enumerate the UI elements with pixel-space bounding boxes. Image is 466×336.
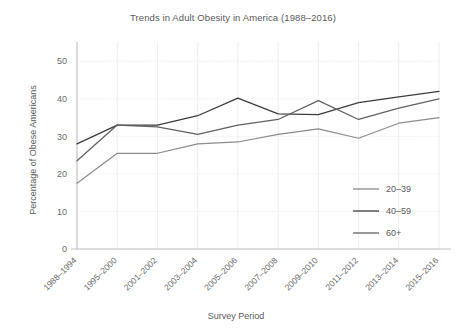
- series-line-2039: [77, 118, 439, 184]
- x-tick-label: 2003–2004: [162, 255, 199, 292]
- horizontal-gridlines: [77, 61, 439, 249]
- x-tick-label: 2001–2002: [122, 255, 159, 292]
- y-axis-title: Percentage of Obese Americans: [28, 85, 38, 215]
- legend-label: 20–39: [386, 184, 411, 194]
- x-tick-label: 1995–2000: [81, 255, 118, 292]
- chart-plot-area: 01020304050 1988–19941995–20002001–20022…: [0, 0, 466, 336]
- x-axis-tick-labels: 1988–19941995–20002001–20022003–20042005…: [41, 255, 440, 292]
- legend-label: 40–59: [386, 206, 411, 216]
- legend-label: 60+: [386, 228, 401, 238]
- y-tick-label: 40: [57, 94, 67, 104]
- x-tick-label: 2007–2008: [242, 255, 279, 292]
- series-line-60+: [77, 99, 439, 161]
- x-tick-label: 2011–2012: [323, 255, 360, 292]
- y-tick-label: 20: [57, 169, 67, 179]
- x-tick-label: 2013–2014: [363, 255, 400, 292]
- x-tick-label: 2009–2010: [283, 255, 320, 292]
- x-axis-title: Survey Period: [208, 311, 265, 321]
- y-tick-label: 0: [62, 244, 67, 254]
- y-tick-label: 30: [57, 132, 67, 142]
- y-tick-label: 10: [57, 207, 67, 217]
- series-lines: [77, 91, 439, 183]
- x-tick-label: 2005–2006: [202, 255, 239, 292]
- axis-titles: Survey PeriodPercentage of Obese America…: [28, 85, 264, 321]
- y-tick-label: 50: [57, 56, 67, 66]
- x-tick-label: 1988–1994: [41, 255, 78, 292]
- y-axis-tick-labels: 01020304050: [57, 56, 67, 254]
- obesity-trends-chart: Trends in Adult Obesity in America (1988…: [0, 0, 466, 336]
- axis-lines: [71, 42, 451, 249]
- x-tick-label: 2015–2016: [403, 255, 440, 292]
- vertical-gridlines: [77, 42, 439, 249]
